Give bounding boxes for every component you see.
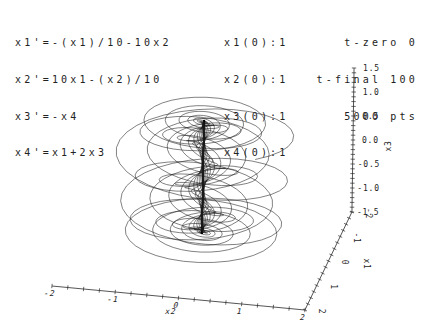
t-zero-value: t-zero 0 [317, 37, 418, 49]
x1-tick-label: 0 [340, 260, 349, 266]
points-count: 5000 pts [317, 111, 418, 123]
x3-tick-label: -0.5 [358, 160, 380, 169]
x2-axis-title: x2 [164, 306, 178, 316]
x2-tick-label: -2 [43, 288, 57, 298]
initial-condition-x2: x2(0):1 [224, 74, 289, 86]
equation-line-3: x3'=-x4 [15, 111, 172, 123]
initial-condition-x3: x3(0):1 [224, 111, 289, 123]
initial-condition-x1: x1(0):1 [224, 37, 289, 49]
time-params-block: t-zero 0 t-final 100 5000 pts [317, 13, 418, 147]
initial-conditions-block: x1(0):1 x2(0):1 x3(0):1 x4(0):1 [224, 13, 289, 184]
initial-condition-x4: x4(0):1 [224, 147, 289, 159]
equation-line-4: x4'=x1+2x3 [15, 147, 172, 159]
x1-tick-label: -1 [352, 232, 361, 243]
x3-tick-label: -1.5 [357, 208, 379, 217]
x3-tick-label: -1.0 [357, 184, 379, 193]
x2-tick-label: 1 [235, 306, 243, 316]
phase-portrait-screen: -2-1012210-1-21.51.00.50.0-0.5-1.0-1.5x2… [0, 0, 421, 336]
equations-block: x1'=-(x1)/10-10x2 x2'=10x1-(x2)/10 x3'=-… [15, 13, 172, 184]
x1-tick-label: 1 [329, 284, 338, 290]
t-final-value: t-final 100 [317, 74, 418, 86]
x1-axis-title: x1 [362, 258, 371, 269]
equation-line-1: x1'=-(x1)/10-10x2 [15, 37, 172, 49]
equation-line-2: x2'=10x1-(x2)/10 [15, 74, 172, 86]
x2-tick-label: -1 [106, 294, 120, 304]
x1-tick-label: 2 [317, 309, 326, 315]
x2-tick-label: 2 [299, 312, 307, 322]
